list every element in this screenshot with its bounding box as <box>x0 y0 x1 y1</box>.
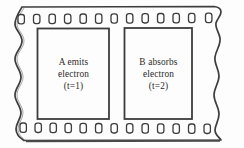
sprocket-hole <box>111 14 117 23</box>
frame-right-border <box>125 28 193 119</box>
sprocket-hole <box>142 14 148 23</box>
sprocket-hole <box>35 123 41 132</box>
filmstrip-diagram: A emits electron (t=1) B absorbs electro… <box>0 0 244 148</box>
sprocket-hole <box>65 123 71 132</box>
sprocket-hole <box>18 15 24 24</box>
sprocket-hole <box>189 13 195 22</box>
sprocket-hole <box>111 124 117 133</box>
sprocket-hole <box>158 124 164 133</box>
sprocket-hole <box>158 14 164 23</box>
sprocket-hole <box>20 123 26 132</box>
sprocket-hole <box>204 124 210 133</box>
sprocket-hole <box>96 124 102 133</box>
sprocket-hole <box>80 14 86 23</box>
sprocket-hole <box>49 14 55 23</box>
sprocket-hole <box>50 123 56 132</box>
sprocket-hole <box>96 14 102 23</box>
sprocket-hole <box>173 124 179 133</box>
filmstrip-graphic <box>0 0 244 148</box>
sprocket-hole <box>65 14 71 23</box>
sprocket-hole <box>173 13 179 22</box>
sprocket-hole <box>189 124 195 133</box>
sprocket-hole <box>127 124 133 133</box>
sprocket-hole <box>80 123 86 132</box>
frame-left-border <box>38 29 110 120</box>
sprocket-hole <box>206 13 212 22</box>
sprocket-hole <box>34 14 40 23</box>
sprocket-hole <box>127 14 133 23</box>
sprocket-hole <box>142 124 148 133</box>
